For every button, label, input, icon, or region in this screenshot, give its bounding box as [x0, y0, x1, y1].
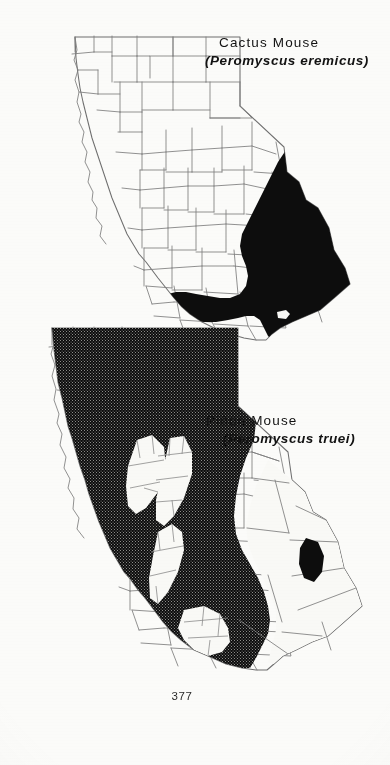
cactus-mouse-map — [34, 22, 364, 357]
book-page: Cactus Mouse (Peromyscus eremicus) — [0, 0, 390, 765]
cactus-mouse-common-name: Cactus Mouse — [205, 34, 369, 52]
coastline-north — [74, 37, 106, 244]
pinon-mouse-caption: Piñon Mouse (Peromyscus truei) — [201, 412, 355, 448]
cactus-mouse-scientific-name: (Peromyscus eremicus) — [205, 52, 369, 70]
page-number: 377 — [0, 690, 390, 702]
pinon-mouse-map — [6, 310, 378, 700]
pinon-mouse-common-name: Piñon Mouse — [201, 412, 355, 430]
pinon-mouse-scientific-name: (Peromyscus truei) — [201, 430, 355, 448]
range-shading-pinon-mouse — [52, 328, 362, 668]
page-number-text: 377 — [172, 690, 193, 702]
cactus-mouse-caption: Cactus Mouse (Peromyscus eremicus) — [205, 34, 369, 70]
